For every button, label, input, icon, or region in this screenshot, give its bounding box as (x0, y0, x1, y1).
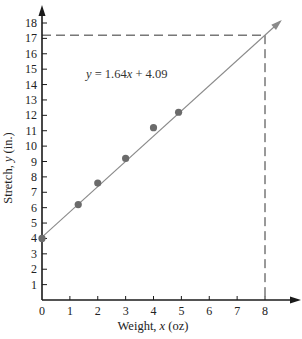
y-tick-label: 13 (25, 93, 37, 107)
data-point (175, 109, 182, 116)
x-axis-title: Weight, x (oz) (118, 319, 189, 333)
y-axis-arrow-icon (39, 5, 46, 16)
x-tick-label: 5 (178, 304, 184, 318)
x-tick-label: 0 (39, 304, 45, 318)
axis-ticks: 012345678123456789101112131415161718 (25, 16, 268, 318)
data-point (38, 235, 45, 242)
y-tick-label: 10 (25, 139, 37, 153)
regression-equation: y = 1.64x + 4.09 (84, 67, 168, 81)
y-tick-label: 18 (25, 16, 37, 30)
y-tick-label: 8 (31, 170, 37, 184)
data-point (75, 201, 82, 208)
y-axis-title: Stretch, y (in.) (1, 132, 15, 204)
y-tick-label: 1 (31, 278, 37, 292)
y-tick-label: 17 (25, 31, 37, 45)
y-tick-label: 6 (31, 201, 37, 215)
x-tick-label: 6 (206, 304, 212, 318)
y-tick-label: 14 (25, 78, 37, 92)
y-tick-label: 15 (25, 62, 37, 76)
y-tick-label: 9 (31, 155, 37, 169)
scatter-chart: 012345678123456789101112131415161718 y =… (0, 0, 301, 339)
data-point (150, 124, 157, 131)
x-tick-label: 4 (151, 304, 157, 318)
y-tick-label: 3 (31, 247, 37, 261)
y-tick-label: 7 (31, 185, 37, 199)
axes (39, 5, 302, 304)
x-tick-label: 2 (95, 304, 101, 318)
y-tick-label: 2 (31, 262, 37, 276)
y-tick-label: 4 (31, 231, 37, 245)
y-tick-label: 11 (25, 124, 37, 138)
data-point (122, 155, 129, 162)
y-tick-label: 16 (25, 47, 37, 61)
y-tick-label: 12 (25, 108, 37, 122)
x-tick-label: 8 (262, 304, 268, 318)
x-tick-label: 1 (67, 304, 73, 318)
y-tick-label: 5 (31, 216, 37, 230)
x-tick-label: 7 (234, 304, 240, 318)
data-point (94, 179, 101, 186)
x-tick-label: 3 (123, 304, 129, 318)
x-axis-arrow-icon (290, 297, 301, 304)
